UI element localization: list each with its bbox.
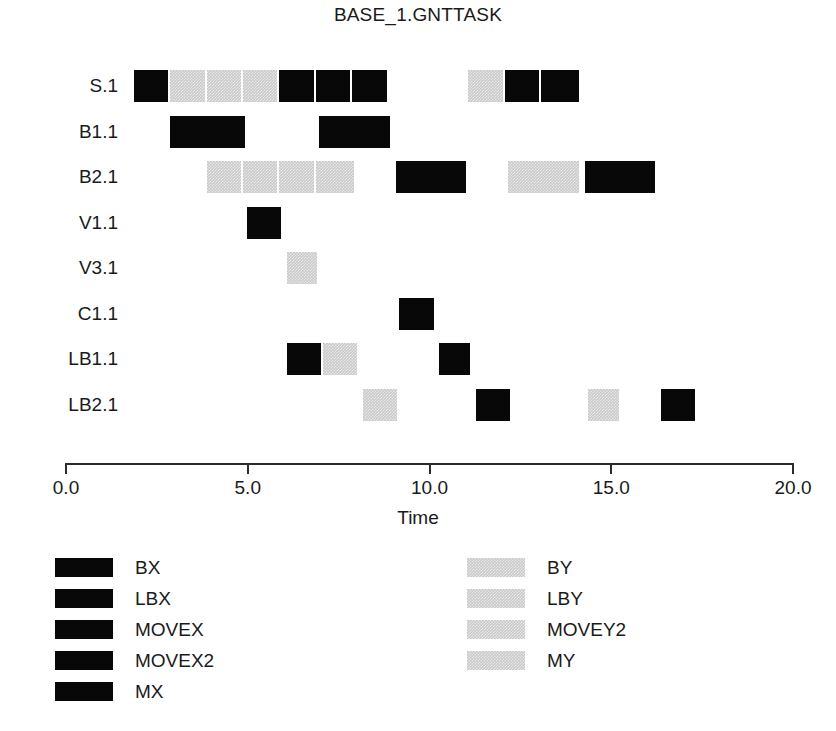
gantt-bar[interactable] — [585, 161, 656, 193]
axis-tick-label: 20.0 — [753, 477, 833, 499]
row-label-text: S.1 — [8, 76, 118, 95]
legend-label: MOVEX — [135, 619, 204, 641]
gantt-bar[interactable] — [323, 343, 357, 375]
gantt-bar[interactable] — [243, 70, 277, 102]
legend-swatch — [467, 589, 525, 608]
axis-tick-label: 0.0 — [26, 477, 106, 499]
gantt-bar[interactable] — [396, 161, 467, 193]
legend-item-lby[interactable]: LBY — [467, 583, 626, 614]
legend-item-by[interactable]: BY — [467, 552, 626, 583]
legend-item-mx[interactable]: MX — [55, 676, 214, 707]
gantt-bar[interactable] — [207, 161, 241, 193]
row-label-text: V3.1 — [8, 258, 118, 277]
gantt-bar[interactable] — [588, 389, 619, 421]
gantt-bar[interactable] — [468, 70, 502, 102]
gantt-bar[interactable] — [170, 116, 244, 148]
gantt-bar[interactable] — [476, 389, 510, 421]
gantt-chart: BASE_1.GNTTASK S.1B1.1B2.1V1.1V3.1C1.1LB… — [0, 0, 836, 731]
legend-label: LBX — [135, 588, 171, 610]
legend-item-movex[interactable]: MOVEX — [55, 614, 214, 645]
axis-title: Time — [0, 507, 836, 529]
gantt-bar[interactable] — [352, 70, 386, 102]
gantt-bar[interactable] — [363, 389, 397, 421]
legend-swatch — [55, 558, 113, 577]
legend-label: MOVEX2 — [135, 650, 214, 672]
axis-tick — [792, 463, 794, 474]
legend-column-left: BXLBXMOVEXMOVEX2MX — [55, 552, 214, 707]
chart-title: BASE_1.GNTTASK — [0, 4, 836, 26]
legend-label: LBY — [547, 588, 583, 610]
legend-swatch — [55, 651, 113, 670]
gantt-bar[interactable] — [439, 343, 470, 375]
axis-tick — [429, 463, 431, 474]
gantt-bar[interactable] — [279, 161, 313, 193]
gantt-bar[interactable] — [541, 70, 579, 102]
gantt-bar[interactable] — [399, 298, 433, 330]
legend-label: BY — [547, 557, 572, 579]
legend-swatch — [467, 558, 525, 577]
legend-label: MY — [547, 650, 576, 672]
axis-tick — [610, 463, 612, 474]
gantt-bar[interactable] — [287, 252, 318, 284]
gantt-bar[interactable] — [247, 207, 281, 239]
axis-tick — [247, 463, 249, 474]
gantt-bar[interactable] — [316, 161, 354, 193]
gantt-bar[interactable] — [319, 116, 390, 148]
legend-label: MX — [135, 681, 164, 703]
plot-area: S.1B1.1B2.1V1.1V3.1C1.1LB1.1LB2.1 — [0, 55, 836, 440]
gantt-bar[interactable] — [661, 389, 695, 421]
legend-item-lbx[interactable]: LBX — [55, 583, 214, 614]
legend-swatch — [55, 589, 113, 608]
gantt-bar[interactable] — [316, 70, 350, 102]
legend-label: MOVEY2 — [547, 619, 626, 641]
axis-tick-label: 10.0 — [390, 477, 470, 499]
row-label-text: LB2.1 — [8, 395, 118, 414]
legend-swatch — [467, 651, 525, 670]
legend-column-right: BYLBYMOVEY2MY — [467, 552, 626, 676]
row-label-text: V1.1 — [8, 213, 118, 232]
gantt-bar[interactable] — [207, 70, 241, 102]
legend-swatch — [467, 620, 525, 639]
gantt-bar[interactable] — [170, 70, 204, 102]
gantt-bar[interactable] — [505, 70, 539, 102]
legend-item-my[interactable]: MY — [467, 645, 626, 676]
legend-item-bx[interactable]: BX — [55, 552, 214, 583]
row-label-text: LB1.1 — [8, 349, 118, 368]
legend-swatch — [55, 620, 113, 639]
legend-label: BX — [135, 557, 160, 579]
row-label-text: B1.1 — [8, 122, 118, 141]
row-label-text: C1.1 — [8, 304, 118, 323]
gantt-bar[interactable] — [243, 161, 277, 193]
gantt-bar[interactable] — [287, 343, 321, 375]
axis-tick-label: 15.0 — [571, 477, 651, 499]
legend-item-movex2[interactable]: MOVEX2 — [55, 645, 214, 676]
gantt-bar[interactable] — [508, 161, 579, 193]
x-axis: 0.05.010.015.020.0 Time — [0, 455, 836, 525]
row-label-text: B2.1 — [8, 167, 118, 186]
gantt-bar[interactable] — [134, 70, 168, 102]
axis-tick-label: 5.0 — [208, 477, 288, 499]
legend: BXLBXMOVEXMOVEX2MX BYLBYMOVEY2MY — [0, 552, 836, 727]
gantt-bar[interactable] — [279, 70, 313, 102]
axis-tick — [65, 463, 67, 474]
legend-item-movey2[interactable]: MOVEY2 — [467, 614, 626, 645]
legend-swatch — [55, 682, 113, 701]
